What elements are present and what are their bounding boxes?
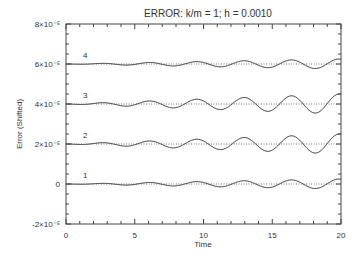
x-tick-label: 15 xyxy=(268,231,277,240)
series-label-3: 3 xyxy=(83,91,88,100)
x-tick-label: 20 xyxy=(337,231,346,240)
plot-frame xyxy=(66,24,341,224)
y-axis-label: Error (Shifted) xyxy=(15,99,24,150)
y-tick-label: 8×10⁻⁵ xyxy=(35,20,60,29)
chart-title: ERROR: k/m = 1; h = 0.0010 xyxy=(144,8,272,19)
series-label-1: 1 xyxy=(83,171,88,180)
chart: ERROR: k/m = 1; h = 0.0010 05101520-2×10… xyxy=(0,0,359,257)
y-tick-label: 0 xyxy=(56,180,61,189)
y-tick-label: 2×10⁻⁵ xyxy=(35,140,60,149)
x-tick-label: 5 xyxy=(133,231,138,240)
series-label-4: 4 xyxy=(83,51,88,60)
series-line-2 xyxy=(66,134,341,153)
x-axis-label: Time xyxy=(194,240,212,249)
series-label-2: 2 xyxy=(83,131,88,140)
series-line-3 xyxy=(66,94,341,113)
y-tick-label: 6×10⁻⁵ xyxy=(35,60,60,69)
x-tick-label: 0 xyxy=(64,231,69,240)
x-tick-label: 10 xyxy=(199,231,208,240)
y-tick-label: 4×10⁻⁵ xyxy=(35,100,60,109)
y-tick-label: -2×10⁻⁵ xyxy=(32,220,60,229)
